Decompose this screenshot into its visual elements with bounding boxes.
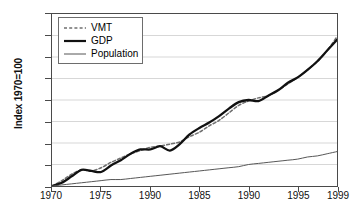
thick-solid-line-swatch [64,36,86,46]
line-chart-figure: Index 1970=100 1001201401601802002202402… [0,0,352,218]
legend-item-vmt: VMT [64,21,138,34]
series-line-population [52,152,337,186]
x-axis-tick-mark [338,187,339,192]
x-axis-tick-mark [51,187,52,192]
y-axis-title: Index 1970=100 [13,24,24,164]
dashed-line-swatch [64,23,86,33]
legend-label-population: Population [91,49,138,59]
x-axis-tick-label: 1999 [316,190,352,201]
legend-label-vmt: VMT [91,23,112,33]
legend-item-gdp: GDP [64,34,138,47]
x-axis-tick-mark [100,187,101,192]
thin-solid-line-swatch [64,49,86,59]
x-axis-tick-mark [150,187,151,192]
x-axis-tick-mark [199,187,200,192]
chart-legend: VMT GDP Population [58,17,143,64]
legend-item-population: Population [64,47,138,60]
x-axis-tick-mark [249,187,250,192]
legend-label-gdp: GDP [91,36,113,46]
x-axis-tick-mark [298,187,299,192]
